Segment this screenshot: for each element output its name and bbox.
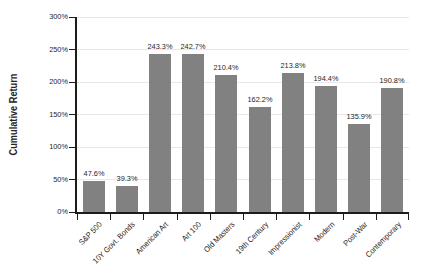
bar <box>149 54 171 212</box>
bar <box>282 73 304 212</box>
bar-value-label: 162.2% <box>247 95 272 104</box>
bar-value-label: 243.3% <box>148 42 173 51</box>
y-axis-tick-label: 150% <box>31 110 68 119</box>
x-axis-tick <box>177 214 178 220</box>
x-category-label: Modern <box>312 220 336 244</box>
x-category-label: Impressionist <box>266 220 303 257</box>
y-axis-tick <box>69 17 75 18</box>
y-axis-tick-label: 300% <box>31 12 68 21</box>
bar-value-label: 39.3% <box>116 174 137 183</box>
x-category-label: S&P 500 <box>77 220 104 247</box>
y-axis-title-wrap: Cumulative Return <box>0 17 26 212</box>
y-axis-tick <box>69 212 75 213</box>
x-category-label: Post-War <box>342 220 370 248</box>
bar <box>215 75 237 212</box>
y-axis-tick-label: 250% <box>31 45 68 54</box>
bar <box>182 54 204 212</box>
y-axis-tick <box>69 49 75 50</box>
gridline <box>77 17 409 18</box>
bar-value-label: 194.4% <box>314 74 339 83</box>
x-axis-tick <box>143 214 144 220</box>
bar <box>83 181 105 212</box>
x-category-label: American Art <box>134 220 170 256</box>
bar <box>315 86 337 212</box>
bar <box>381 88 403 212</box>
gridline <box>77 49 409 50</box>
bar <box>249 107 271 212</box>
bar-value-label: 47.6% <box>83 169 104 178</box>
y-axis-tick <box>69 147 75 148</box>
bar <box>116 186 138 212</box>
x-category-label: Old Masters <box>202 220 236 254</box>
y-axis-tick-label: 0% <box>31 207 68 216</box>
y-axis-title: Cumulative Return <box>8 74 19 156</box>
x-category-label: Art 100 <box>180 220 203 243</box>
x-category-label: 19th Century <box>234 220 270 256</box>
y-axis-tick <box>69 114 75 115</box>
x-axis-tick <box>110 214 111 220</box>
y-axis-tick <box>69 82 75 83</box>
x-axis-tick <box>408 214 409 220</box>
gridline <box>77 82 409 83</box>
x-axis-tick <box>343 214 344 220</box>
bar-value-label: 135.9% <box>347 112 372 121</box>
x-axis-tick <box>376 214 377 220</box>
x-axis-tick <box>77 214 78 220</box>
plot-area: 300%250%200%150%100%50%0%47.6%S&P 50039.… <box>75 17 409 214</box>
bar-value-label: 242.7% <box>181 42 206 51</box>
cumulative-return-bar-chart: Cumulative Return 300%250%200%150%100%50… <box>0 0 423 277</box>
y-axis-tick-label: 200% <box>31 77 68 86</box>
bar <box>348 124 370 212</box>
bar-value-label: 213.8% <box>280 61 305 70</box>
y-axis-tick <box>69 179 75 180</box>
y-axis-tick-label: 50% <box>31 175 68 184</box>
bar-value-label: 190.8% <box>380 76 405 85</box>
x-axis-tick <box>243 214 244 220</box>
bar-value-label: 210.4% <box>214 63 239 72</box>
x-axis-tick <box>210 214 211 220</box>
x-axis-tick <box>309 214 310 220</box>
x-axis-tick <box>276 214 277 220</box>
y-axis-tick-label: 100% <box>31 142 68 151</box>
